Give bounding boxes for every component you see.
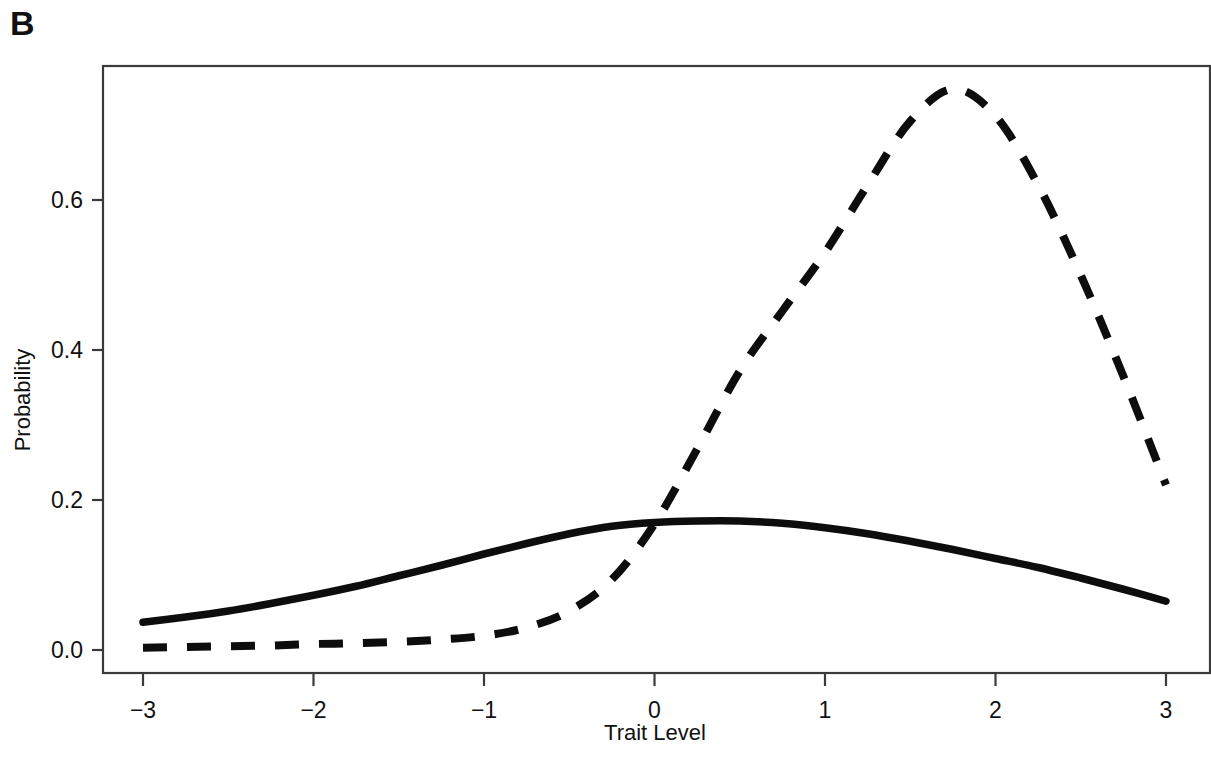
y-tick-label: 0.4: [51, 337, 83, 363]
x-tick-label: −3: [130, 697, 156, 723]
series-solid-curve: [143, 521, 1166, 622]
plot-frame: [103, 66, 1210, 673]
panel-label: B: [10, 6, 35, 40]
chart-canvas: 0.00.20.40.6 −3−2−10123 Trait Level Prob…: [0, 0, 1211, 760]
x-tick-label: 3: [1160, 697, 1173, 723]
x-tick-label: −2: [300, 697, 326, 723]
x-tick-label: 1: [819, 697, 832, 723]
x-axis-title: Trait Level: [604, 720, 706, 745]
x-tick-label: 2: [989, 697, 1002, 723]
figure-panel-b: B 0.00.20.40.6 −3−2−10123 Trait Level Pr…: [0, 0, 1211, 760]
y-tick-label: 0.6: [51, 187, 83, 213]
data-series-layer: [143, 89, 1166, 648]
y-tick-label: 0.2: [51, 487, 83, 513]
x-tick-label: −1: [471, 697, 497, 723]
x-axis: −3−2−10123: [130, 673, 1173, 723]
y-axis: 0.00.20.40.6: [51, 187, 103, 663]
y-axis-title: Probability: [10, 349, 35, 452]
y-tick-label: 0.0: [51, 637, 83, 663]
